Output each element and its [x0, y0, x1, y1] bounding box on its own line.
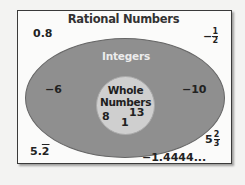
neg-half-denominator: 2: [212, 37, 218, 45]
neg-half-fraction: 1 2: [212, 28, 218, 45]
five-point-two-repeating-digit: 2: [42, 145, 50, 158]
value-1: 1: [121, 116, 129, 129]
five-point-two-base: 5.: [30, 145, 42, 158]
value-neg-6: −6: [45, 83, 62, 96]
value-neg-half: − 1 2: [203, 28, 218, 45]
whole-numbers-title-line1: Whole: [96, 84, 155, 96]
value-0-8: 0.8: [33, 27, 53, 40]
value-5-2-thirds: 5 2 3: [205, 131, 220, 148]
rational-numbers-title: Rational Numbers: [17, 12, 230, 26]
five-two-thirds-fraction: 2 3: [214, 131, 220, 148]
value-neg-10: −10: [182, 83, 207, 96]
integers-title: Integers: [102, 50, 150, 62]
neg-half-sign: −: [203, 30, 212, 43]
neg-half-numerator: 1: [212, 28, 218, 36]
five-two-thirds-denominator: 3: [214, 140, 220, 148]
value-5-point-2-repeating: 5.2: [30, 145, 50, 158]
value-13: 13: [129, 106, 144, 119]
value-8: 8: [102, 110, 110, 123]
five-two-thirds-numerator: 2: [214, 131, 220, 139]
whole-numbers-title: Whole Numbers: [96, 84, 155, 108]
whole-numbers-title-line2: Numbers: [96, 96, 155, 108]
value-neg-1-4444: −1.4444...: [142, 151, 206, 164]
five-two-thirds-whole: 5: [205, 133, 213, 146]
